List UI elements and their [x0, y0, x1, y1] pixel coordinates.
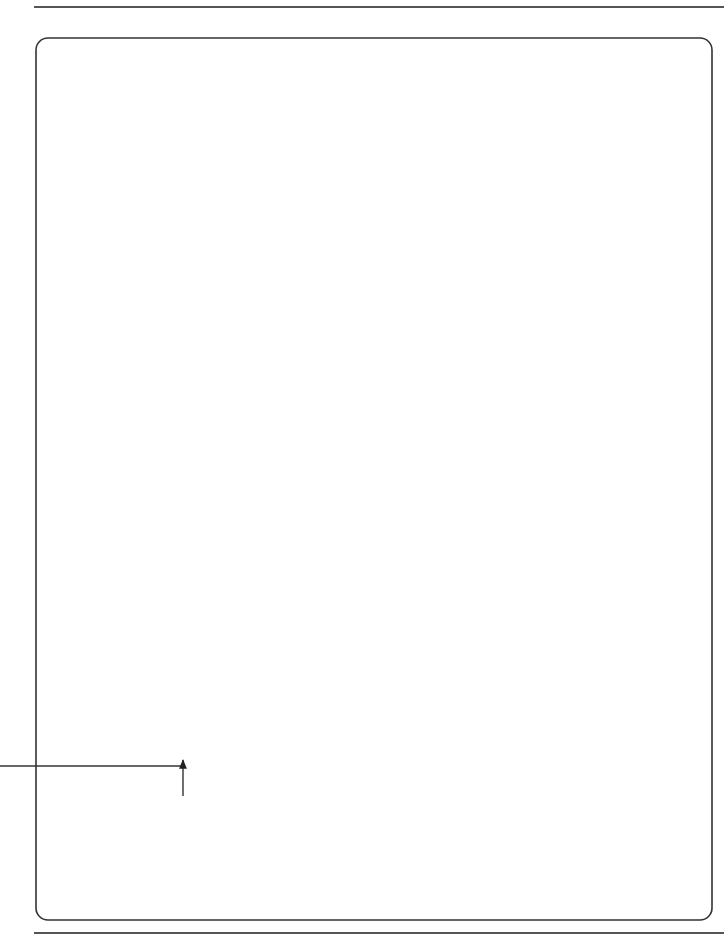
flowchart-canvas: [0, 0, 724, 946]
connectors: [0, 664, 262, 796]
diagram-frame: [36, 38, 712, 920]
